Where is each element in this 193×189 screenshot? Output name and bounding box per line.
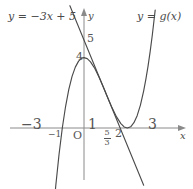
y-tick-5: 5 bbox=[87, 33, 94, 44]
x-tick-1: 1 bbox=[88, 117, 97, 131]
x-tick-five-thirds: 5 3 bbox=[101, 129, 113, 148]
curve-equation-label: y = g(x) bbox=[137, 11, 181, 22]
graph-figure: y = −3x + 5 y = g(x) y x O −3 −1 1 2 3 5… bbox=[0, 0, 193, 189]
line-equation-label: y = −3x + 5 bbox=[8, 11, 76, 22]
graph-canvas bbox=[0, 0, 193, 189]
y-axis-label: y bbox=[88, 11, 94, 21]
x-tick-2: 2 bbox=[115, 128, 122, 139]
x-tick-3: 3 bbox=[148, 117, 157, 131]
x-tick-minus-1: −1 bbox=[48, 130, 61, 139]
x-tick-minus-3: −3 bbox=[21, 117, 42, 131]
line-graph bbox=[70, 6, 144, 186]
origin-label: O bbox=[73, 130, 82, 141]
cubic-curve bbox=[53, 10, 156, 189]
fraction-numerator: 5 bbox=[101, 129, 113, 137]
fraction-denominator: 3 bbox=[101, 139, 113, 147]
x-axis-label: x bbox=[180, 131, 186, 141]
y-tick-4: 4 bbox=[76, 51, 83, 62]
